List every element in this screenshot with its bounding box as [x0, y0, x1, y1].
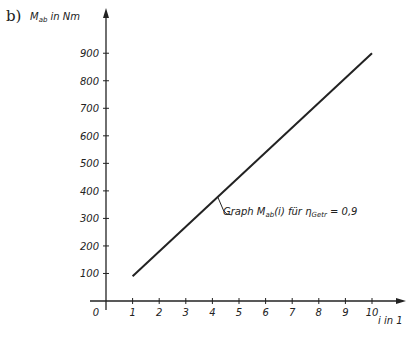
x-tick-label: 2 [156, 307, 162, 318]
y-tick-label: 200 [80, 241, 99, 252]
x-tick-label: 8 [316, 307, 322, 318]
x-tick-label: 5 [236, 307, 242, 318]
y-ticks: 100200300400500600700800900 [80, 48, 109, 279]
y-tick-label: 400 [80, 186, 99, 197]
x-tick-label: 6 [262, 307, 268, 318]
y-tick-label: 900 [80, 48, 99, 59]
y-tick-label: 300 [80, 213, 99, 224]
series-line [133, 53, 372, 276]
x-tick-label: 3 [183, 307, 189, 318]
x-axis-arrow-icon [396, 298, 406, 304]
y-tick-label: 700 [80, 103, 99, 114]
x-axis-label: i in 1 [378, 315, 403, 326]
x-tick-label: 7 [289, 307, 296, 318]
annotation-label: Graph Mab(i) für ηGetr = 0,9 [223, 206, 357, 219]
panel-label: b) [6, 7, 21, 25]
y-axis-arrow-icon [103, 8, 109, 18]
y-tick-label: 600 [80, 131, 99, 142]
x-tick-label: 1 [129, 307, 135, 318]
y-tick-label: 800 [80, 76, 99, 87]
y-tick-label: 500 [80, 158, 99, 169]
x-tick-label: 0 [93, 307, 99, 318]
y-axis-label: Mab in Nm [30, 11, 80, 24]
x-tick-label: 4 [209, 307, 215, 318]
x-tick-label: 10 [366, 307, 379, 318]
x-tick-label: 9 [342, 307, 348, 318]
y-tick-label: 100 [80, 268, 99, 279]
chart: b) Mab in Nm 100200300400500600700800900… [0, 0, 412, 338]
